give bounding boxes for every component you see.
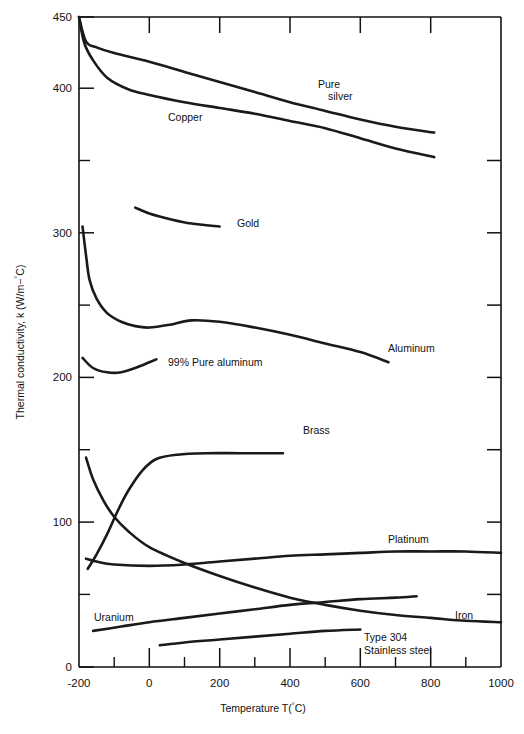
x-axis-top-ticks xyxy=(149,17,430,33)
x-tick-label-200: 200 xyxy=(210,677,229,689)
curve-copper xyxy=(79,17,434,157)
x-tick-label-800: 800 xyxy=(421,677,440,689)
y-tick-label-100: 100 xyxy=(53,516,72,528)
curve-iron xyxy=(86,458,501,623)
curve-uranium xyxy=(93,596,417,631)
series-label-aluminum: Aluminum xyxy=(388,342,435,354)
series-label-iron: Iron xyxy=(455,609,473,621)
series-label-copper: Copper xyxy=(168,111,203,123)
y-axis-major-ticks xyxy=(79,17,94,667)
y-tick-label-300: 300 xyxy=(53,227,72,239)
chart-canvas: 450 400 300 200 100 0 -200 0 200 400 600… xyxy=(0,0,524,734)
y-axis-right-ticks xyxy=(487,161,501,595)
x-tick-label-0: 0 xyxy=(146,677,152,689)
curve-brass xyxy=(88,453,283,569)
curve-gold xyxy=(135,208,219,227)
curve-99-pure-aluminum xyxy=(83,358,157,373)
y-axis-title: Thermal conductivity, k (W/m−°C) xyxy=(13,265,26,420)
series-label-gold: Gold xyxy=(237,217,259,229)
series-label-pure-silver-line2: silver xyxy=(328,90,353,102)
y-tick-label-400: 400 xyxy=(53,82,72,94)
x-tick-label-400: 400 xyxy=(280,677,299,689)
x-axis-title: Temperature T(°C) xyxy=(220,701,306,714)
series-label-platinum: Platinum xyxy=(388,533,429,545)
curve-aluminum xyxy=(83,226,389,362)
thermal-conductivity-figure: 450 400 300 200 100 0 -200 0 200 400 600… xyxy=(0,0,524,734)
curve-platinum xyxy=(86,551,501,566)
y-tick-label-0: 0 xyxy=(66,661,72,673)
y-tick-label-450: 450 xyxy=(53,11,72,23)
x-tick-label-600: 600 xyxy=(351,677,370,689)
series-label-pure-silver-line1: Pure xyxy=(318,78,340,90)
y-tick-label-200: 200 xyxy=(53,371,72,383)
data-curves xyxy=(79,17,501,645)
series-label-stainless-line2: Stainless steel xyxy=(364,644,432,656)
series-label-stainless-line1: Type 304 xyxy=(364,631,407,643)
series-label-uranium: Uranium xyxy=(94,611,134,623)
x-tick-label-m200: -200 xyxy=(67,677,90,689)
series-label-pure-aluminum: 99% Pure aluminum xyxy=(168,356,263,368)
x-tick-label-1000: 1000 xyxy=(488,677,514,689)
plot-frame xyxy=(79,17,501,667)
curve-type-304-stainless-steel xyxy=(160,629,360,645)
series-label-brass: Brass xyxy=(303,424,330,436)
